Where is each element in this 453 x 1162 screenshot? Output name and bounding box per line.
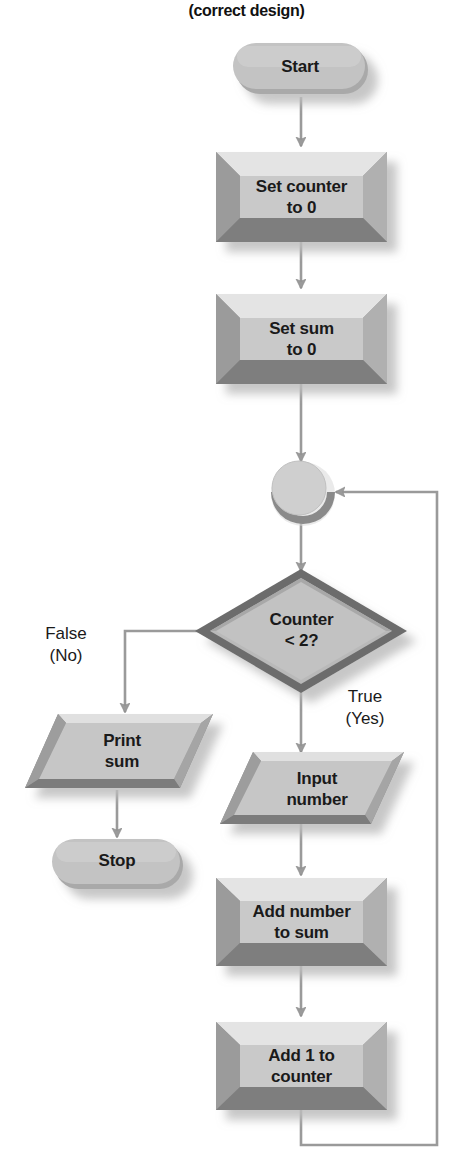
flowchart-graphics <box>0 0 453 1162</box>
node-set-sum[interactable] <box>216 294 387 384</box>
edge-decision-false <box>125 631 224 712</box>
node-set-counter[interactable] <box>216 152 387 242</box>
edge-label-true: True (Yes) <box>320 686 410 730</box>
node-print-sum[interactable] <box>25 714 213 788</box>
node-add-counter[interactable] <box>216 1022 387 1110</box>
node-connector[interactable] <box>271 461 335 526</box>
edge-label-false: False (No) <box>18 623 114 667</box>
node-add-number[interactable] <box>216 878 387 966</box>
node-input-number[interactable] <box>220 752 404 824</box>
node-decision[interactable] <box>195 569 407 693</box>
flowchart-canvas: (correct design) <box>0 0 453 1162</box>
node-stop[interactable] <box>52 839 183 889</box>
node-start[interactable] <box>233 43 368 94</box>
